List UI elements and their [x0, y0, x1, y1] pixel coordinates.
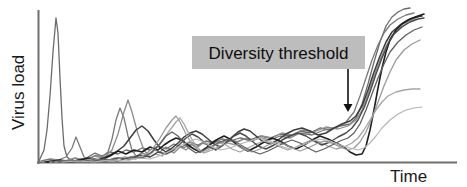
annotation-arrow-head-diversity-threshold	[344, 104, 353, 112]
annotation-group: Diversity threshold	[192, 36, 365, 112]
x-axis-label: Time	[390, 167, 427, 186]
y-axis-label: Virus load	[9, 55, 28, 130]
series-line-patient-1	[39, 8, 410, 161]
annotation-label-diversity-threshold: Diversity threshold	[209, 44, 349, 63]
virus-load-over-time-chart: Diversity threshold Virus load Time	[0, 0, 467, 187]
curve-group	[39, 8, 424, 162]
